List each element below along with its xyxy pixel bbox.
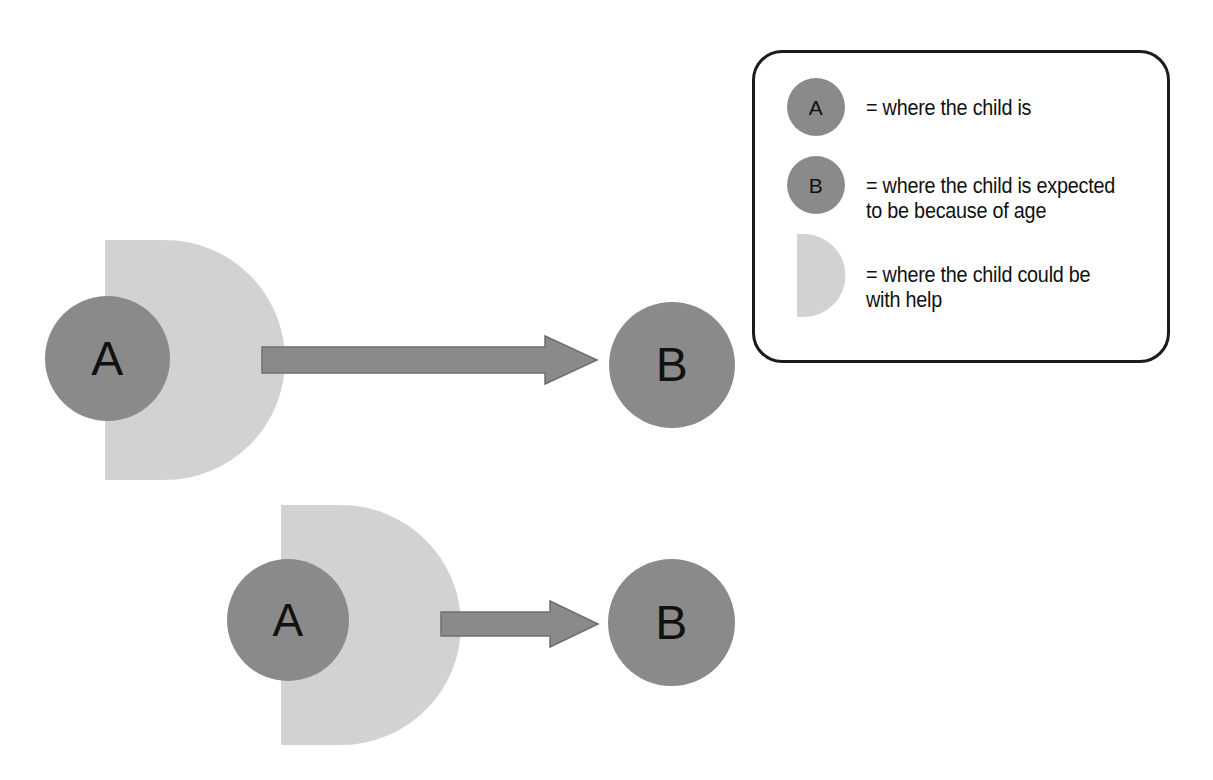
diagram-canvas: A B A B A = where the child is B = where…: [0, 0, 1213, 780]
legend-swatch-zone-layer: [0, 0, 1213, 780]
legend-swatch-zone: [797, 234, 845, 317]
legend-item-2-text: = where the child could be with help: [866, 263, 1170, 313]
